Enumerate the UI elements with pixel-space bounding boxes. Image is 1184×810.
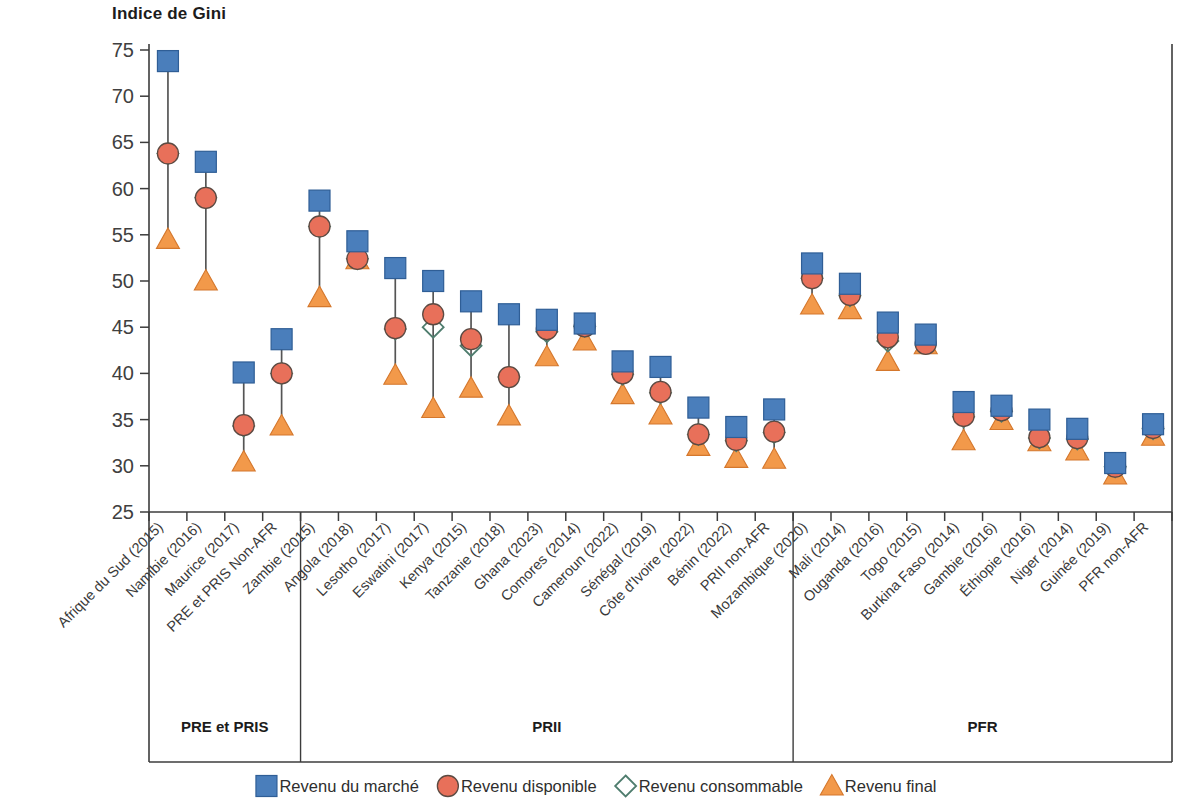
y-tick-label: 65 bbox=[112, 131, 134, 153]
y-tick-label: 25 bbox=[112, 501, 134, 523]
marker-revenu-final bbox=[460, 377, 483, 397]
marker-revenu-final bbox=[232, 451, 255, 471]
marker-revenu-du-marche bbox=[309, 190, 330, 211]
marker-revenu-du-marche bbox=[536, 309, 557, 330]
marker-revenu-du-marche bbox=[385, 258, 406, 279]
legend-label-consommable[interactable]: Revenu consommable bbox=[639, 777, 803, 795]
marker-revenu-disponible bbox=[764, 421, 785, 442]
marker-revenu-final bbox=[649, 403, 672, 423]
legend-label-final[interactable]: Revenu final bbox=[845, 777, 937, 795]
marker-revenu-final bbox=[308, 286, 331, 306]
marker-revenu-final bbox=[952, 429, 975, 449]
marker-revenu-du-marche bbox=[726, 416, 747, 437]
y-tick-label: 60 bbox=[112, 178, 134, 200]
marker-revenu-disponible bbox=[271, 363, 292, 384]
marker-revenu-final bbox=[611, 383, 634, 403]
marker-revenu-disponible bbox=[461, 329, 482, 350]
marker-revenu-final bbox=[422, 397, 445, 417]
marker-revenu-du-marche bbox=[764, 399, 785, 420]
marker-revenu-du-marche bbox=[1067, 418, 1088, 439]
marker-revenu-disponible bbox=[157, 143, 178, 164]
marker-revenu-disponible bbox=[688, 424, 709, 445]
marker-revenu-du-marche bbox=[574, 313, 595, 334]
marker-revenu-du-marche bbox=[271, 329, 292, 350]
legend-marker-revenu-consommable bbox=[615, 776, 636, 797]
marker-revenu-disponible bbox=[650, 381, 671, 402]
marker-revenu-disponible bbox=[385, 318, 406, 339]
group-label: PRII bbox=[532, 718, 561, 735]
marker-revenu-du-marche bbox=[688, 397, 709, 418]
gini-index-chart: Indice de Gini 2530354045505560657075Afr… bbox=[0, 0, 1184, 810]
marker-revenu-du-marche bbox=[423, 271, 444, 292]
marker-revenu-disponible bbox=[195, 187, 216, 208]
y-tick-label: 50 bbox=[112, 270, 134, 292]
marker-revenu-du-marche bbox=[839, 273, 860, 294]
x-tick-label-text: PFR non-AFR bbox=[1075, 519, 1151, 595]
marker-revenu-du-marche bbox=[802, 253, 823, 274]
group-label: PFR bbox=[968, 718, 998, 735]
marker-revenu-disponible bbox=[498, 367, 519, 388]
x-tick-label: PFR non-AFR bbox=[1075, 519, 1151, 595]
y-tick-label: 75 bbox=[112, 39, 134, 61]
marker-revenu-final bbox=[801, 294, 824, 314]
marker-revenu-du-marche bbox=[461, 291, 482, 312]
y-tick-label: 55 bbox=[112, 224, 134, 246]
y-tick-label: 45 bbox=[112, 316, 134, 338]
legend-marker-revenu-final bbox=[820, 775, 843, 795]
marker-revenu-du-marche bbox=[650, 356, 671, 377]
marker-revenu-final bbox=[763, 448, 786, 468]
y-tick-label: 35 bbox=[112, 409, 134, 431]
marker-revenu-disponible bbox=[423, 304, 444, 325]
marker-revenu-final bbox=[270, 415, 293, 435]
y-tick-label: 70 bbox=[112, 85, 134, 107]
y-tick-label: 30 bbox=[112, 455, 134, 477]
marker-revenu-final bbox=[194, 270, 217, 290]
legend-marker-revenu-du-marche bbox=[256, 776, 277, 797]
plot-area: 2530354045505560657075Afrique du Sud (20… bbox=[0, 0, 1184, 810]
group-label: PRE et PRIS bbox=[181, 718, 269, 735]
marker-revenu-final bbox=[497, 404, 520, 424]
marker-revenu-disponible bbox=[309, 216, 330, 237]
marker-revenu-du-marche bbox=[233, 362, 254, 383]
marker-revenu-du-marche bbox=[1105, 453, 1126, 474]
marker-revenu-disponible bbox=[233, 415, 254, 436]
marker-revenu-du-marche bbox=[915, 324, 936, 345]
legend-label-disponible[interactable]: Revenu disponible bbox=[461, 777, 597, 795]
marker-revenu-du-marche bbox=[347, 231, 368, 252]
marker-revenu-du-marche bbox=[612, 351, 633, 372]
y-tick-label: 40 bbox=[112, 362, 134, 384]
marker-revenu-final bbox=[876, 350, 899, 370]
marker-revenu-du-marche bbox=[195, 151, 216, 172]
marker-revenu-du-marche bbox=[157, 51, 178, 72]
marker-revenu-final bbox=[535, 345, 558, 365]
marker-revenu-du-marche bbox=[877, 312, 898, 333]
marker-revenu-du-marche bbox=[1029, 409, 1050, 430]
legend-label-marche[interactable]: Revenu du marché bbox=[279, 777, 418, 795]
legend-marker-revenu-disponible bbox=[437, 776, 458, 797]
marker-revenu-du-marche bbox=[1143, 414, 1164, 435]
marker-revenu-final bbox=[384, 364, 407, 384]
marker-revenu-final bbox=[156, 228, 179, 248]
marker-revenu-du-marche bbox=[991, 395, 1012, 416]
marker-revenu-du-marche bbox=[498, 304, 519, 325]
marker-revenu-du-marche bbox=[953, 392, 974, 413]
